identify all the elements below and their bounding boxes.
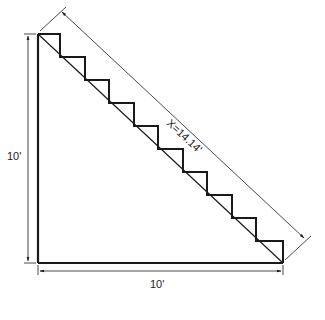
- vertical-dimension-label: 10': [7, 150, 21, 162]
- horizontal-dimension-label: 10': [150, 278, 164, 290]
- vertical-dimension: [24, 34, 36, 263]
- horizontal-dimension: [38, 265, 283, 275]
- staircase-diagram: 10' 10' X=14.14': [0, 0, 325, 320]
